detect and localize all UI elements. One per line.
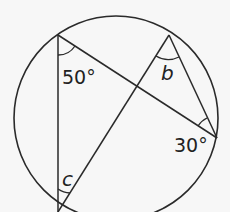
chord-b-c <box>58 35 169 212</box>
circle-diagram: 50° b 30° c <box>0 0 230 212</box>
angle-arc-d <box>198 118 207 126</box>
angle-label-b: b <box>161 61 174 85</box>
angle-arc-b <box>156 56 179 59</box>
angle-label-c: c <box>62 167 73 191</box>
angle-label-50: 50° <box>62 66 96 88</box>
angle-arc-a <box>58 46 75 55</box>
circle <box>14 16 218 212</box>
angle-label-30: 30° <box>174 134 208 156</box>
